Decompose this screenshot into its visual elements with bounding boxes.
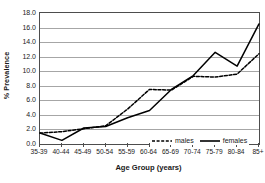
x-axis-tick-label: 40-44 <box>52 148 69 155</box>
x-axis-tick-label: 80-84 <box>228 148 245 155</box>
dashed-line-icon <box>152 138 172 144</box>
y-axis-tick-label: 12.0 <box>22 52 36 59</box>
y-axis-tick-label: 14.0 <box>22 38 36 45</box>
x-axis-tick <box>105 143 106 147</box>
x-axis-tick-label: 55-59 <box>118 148 135 155</box>
y-axis-tick-label: 8.0 <box>26 81 36 88</box>
y-axis-tick-label: 2.0 <box>26 125 36 132</box>
y-axis-tick-labels: 18.016.014.012.010.08.06.04.02.00.0 <box>14 7 38 147</box>
chart-legend: males females <box>150 136 249 145</box>
x-axis-tick-label: 60-64 <box>140 148 157 155</box>
y-axis-tick-label: 4.0 <box>26 110 36 117</box>
y-axis-tick-label: 16.0 <box>22 23 36 30</box>
x-axis-tick-label: 70-74 <box>184 148 201 155</box>
x-axis-tick <box>39 143 40 147</box>
x-axis-tick-labels: 35-3940-4445-4950-5455-5960-6465-6970-74… <box>39 148 258 160</box>
x-axis-title: Age Group (years) <box>39 163 258 172</box>
y-axis-tick-label: 10.0 <box>22 67 36 74</box>
plot-area <box>39 12 260 145</box>
solid-line-icon <box>200 138 220 144</box>
prevalence-by-age-group-chart: % Prevalence 18.016.014.012.010.08.06.04… <box>0 0 265 183</box>
series-line-males <box>40 54 259 133</box>
x-axis-tick-label: 50-54 <box>96 148 113 155</box>
x-axis-tick <box>127 143 128 147</box>
series-lines <box>40 13 259 144</box>
y-axis-tick-label: 6.0 <box>26 96 36 103</box>
x-axis-tick-label: 65-69 <box>162 148 179 155</box>
legend-label-males: males <box>175 137 194 144</box>
x-axis-tick <box>61 143 62 147</box>
series-line-females <box>40 24 259 140</box>
legend-item-females: females <box>200 137 248 144</box>
legend-item-males: males <box>152 137 194 144</box>
y-axis-title: % Prevalence <box>0 0 14 150</box>
legend-label-females: females <box>223 137 248 144</box>
x-axis-tick-label: 35-39 <box>31 148 48 155</box>
x-axis-tick <box>83 143 84 147</box>
x-axis-tick <box>258 143 259 147</box>
y-axis-tick-label: 0.0 <box>26 140 36 147</box>
x-axis-tick-label: 75-79 <box>206 148 223 155</box>
x-axis-tick-label: 45-49 <box>74 148 91 155</box>
y-axis-title-text: % Prevalence <box>3 51 12 99</box>
y-axis-tick-label: 18.0 <box>22 9 36 16</box>
x-axis-tick-label: 85+ <box>252 148 263 155</box>
